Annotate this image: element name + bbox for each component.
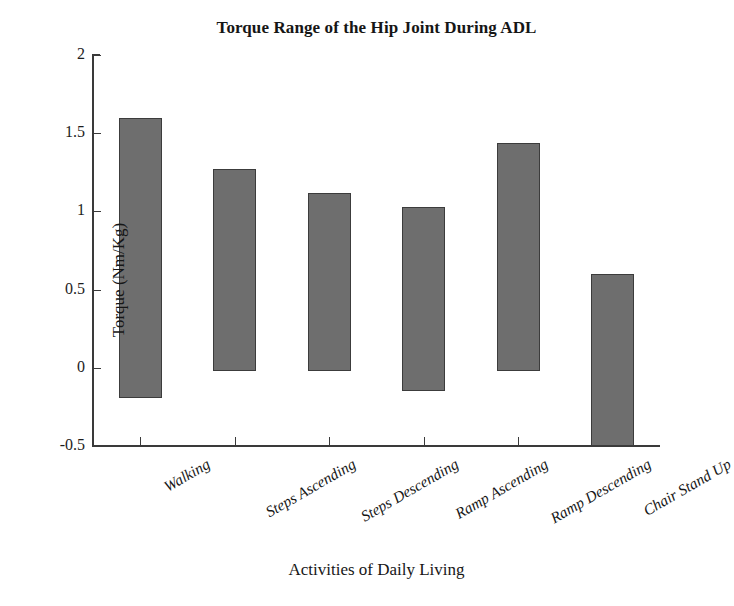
y-tick-label: 0.5 [25, 281, 85, 297]
x-category-label: Ramp Ascending [452, 455, 551, 523]
y-tick-label: 1.5 [25, 124, 85, 140]
x-axis-label: Activities of Daily Living [93, 560, 660, 580]
x-category-label: Walking [161, 455, 214, 496]
y-tick-label-wrap: 1 [20, 211, 85, 212]
y-tick-label-wrap: 0 [20, 368, 85, 369]
y-tick-label-wrap: 1.5 [20, 133, 85, 134]
x-category-label: Chair Stand Up [640, 455, 734, 520]
bar [497, 143, 540, 371]
x-category-label: Steps Ascending [262, 455, 358, 521]
y-tick-label-wrap: 0.5 [20, 290, 85, 291]
bar [213, 169, 256, 371]
y-tick-label: 0 [25, 359, 85, 375]
bar [591, 274, 634, 446]
y-tick-mark [94, 446, 101, 447]
y-tick-label: 1 [25, 202, 85, 218]
y-tick-label-wrap: -0.5 [20, 446, 85, 447]
plot-area: Torque (Nm/Kg) [93, 55, 660, 446]
y-tick-label: -0.5 [25, 437, 85, 453]
x-category-label: Ramp Descending [547, 455, 654, 527]
chart-title: Torque Range of the Hip Joint During ADL [93, 18, 660, 38]
y-tick-label-wrap: 2 [20, 55, 85, 56]
y-axis-label: Torque (Nm/Kg) [109, 150, 129, 410]
x-category-label: Steps Descending [358, 455, 462, 525]
y-tick-label: 2 [25, 46, 85, 62]
bar [402, 207, 445, 392]
bar [308, 193, 351, 371]
